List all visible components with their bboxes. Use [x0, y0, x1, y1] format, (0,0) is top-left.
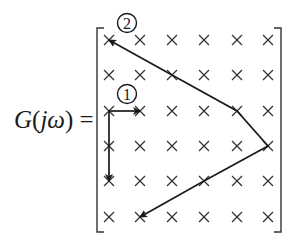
- matrix-entry-cross-icon: [167, 35, 177, 45]
- svg-text:2: 2: [123, 15, 131, 32]
- matrix-entry-cross-icon: [199, 35, 209, 45]
- path-1-badge: 1: [118, 85, 137, 104]
- diagram-canvas: G(jω) = 12: [0, 0, 300, 242]
- left-bracket: [97, 28, 104, 232]
- matrix-entry-cross-icon: [232, 212, 242, 222]
- matrix-entry-cross-icon: [167, 212, 177, 222]
- matrix-entry-cross-icon: [263, 106, 273, 116]
- right-bracket: [274, 28, 281, 232]
- matrix-entry-cross-icon: [167, 176, 177, 186]
- matrix-entry-cross-icon: [135, 141, 145, 151]
- matrix-entry-cross-icon: [232, 176, 242, 186]
- matrix-diagram: 12: [0, 0, 300, 242]
- svg-text:1: 1: [123, 86, 131, 103]
- matrix-entry-cross-icon: [263, 35, 273, 45]
- matrix-entry-cross-icon: [263, 70, 273, 80]
- path-2-badge: 2: [118, 14, 137, 33]
- matrix-entry-cross-icon: [232, 70, 242, 80]
- matrix-entry-cross-icon: [232, 141, 242, 151]
- scan-paths: [109, 40, 268, 217]
- matrix-entry-cross-icon: [199, 212, 209, 222]
- path-badges: 12: [118, 14, 137, 104]
- matrix-entry-cross-icon: [135, 70, 145, 80]
- matrix-entry-cross-icon: [104, 70, 114, 80]
- matrix-entry-cross-icon: [135, 176, 145, 186]
- matrix-entries: [104, 35, 273, 222]
- matrix-entry-cross-icon: [135, 35, 145, 45]
- matrix-entry-cross-icon: [104, 212, 114, 222]
- matrix-entry-cross-icon: [263, 212, 273, 222]
- matrix-entry-cross-icon: [167, 141, 177, 151]
- matrix-entry-cross-icon: [199, 70, 209, 80]
- matrix-entry-cross-icon: [199, 106, 209, 116]
- matrix-entry-cross-icon: [232, 35, 242, 45]
- matrix-entry-cross-icon: [167, 106, 177, 116]
- matrix-entry-cross-icon: [263, 176, 273, 186]
- path-2-polyline: [109, 40, 268, 217]
- matrix-entry-cross-icon: [199, 141, 209, 151]
